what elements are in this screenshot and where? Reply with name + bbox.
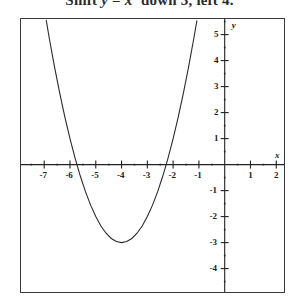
y-minor-tick [224,177,226,179]
x-minor-tick [134,164,136,166]
x-minor-tick [237,164,239,166]
x-minor-tick [31,164,33,166]
y-minor-tick [224,255,226,257]
caption-prefix: Shift [65,0,101,8]
x-minor-tick [82,164,84,166]
y-minor-tick [224,229,226,231]
y-minor-tick [224,281,226,283]
y-minor-tick [224,21,226,23]
figure-caption: Shift y = x2 down 3, left 4. [0,0,299,9]
y-minor-tick [224,47,226,49]
plot-frame: -7-6-5-4-3-2-11254321-1-2-3-4xy [20,18,285,293]
y-tick-label-neg4: -4 [209,264,217,273]
y-minor-tick [224,99,226,101]
caption-variable-x: x [125,0,133,8]
x-minor-tick [211,164,213,166]
x-tick-label-neg4: -4 [117,171,125,180]
x-minor-tick [263,164,265,166]
axis-layer [21,19,284,292]
figure-page: Shift y = x2 down 3, left 4. -7-6-5-4-3-… [0,0,299,306]
y-tick-label-3: 3 [214,82,219,91]
y-tick-label-5: 5 [214,30,219,39]
caption-variable-y: y [101,0,108,8]
parabola-curve [46,20,197,242]
caption-suffix: down 3, left 4. [137,0,234,8]
y-tick-label-neg1: -1 [209,186,217,195]
y-minor-tick [224,73,226,75]
x-minor-tick [185,164,187,166]
x-minor-tick [56,164,58,166]
x-tick-label-neg7: -7 [40,171,48,180]
x-tick-label-neg2: -2 [169,171,177,180]
y-tick-label-neg3: -3 [209,238,217,247]
x-minor-tick [108,164,110,166]
y-tick-label-neg2: -2 [209,212,217,221]
y-tick-label-4: 4 [214,56,219,65]
x-tick-label-1: 1 [248,171,253,180]
x-tick-label-neg3: -3 [143,171,151,180]
y-minor-tick [224,203,226,205]
y-axis-name: y [232,21,236,30]
x-tick-label-2: 2 [274,171,279,180]
x-tick-label-neg6: -6 [65,171,73,180]
parabola-path [46,20,197,242]
x-tick-label-neg1: -1 [194,171,202,180]
y-tick-label-1: 1 [214,134,219,143]
y-minor-tick [224,151,226,153]
x-minor-tick [159,164,161,166]
x-tick-label-neg5: -5 [91,171,99,180]
y-minor-tick [224,125,226,127]
x-axis-name: x [275,151,280,160]
caption-equals: = [108,0,125,8]
y-tick-label-2: 2 [214,108,219,117]
plot-canvas [21,19,284,292]
